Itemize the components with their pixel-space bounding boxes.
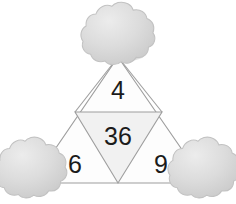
number-center: 36 [104,122,132,150]
puzzle-canvas: 4 36 6 9 [0,0,236,204]
puzzle-scene: 4 36 6 9 [0,0,236,204]
number-top: 4 [111,76,125,104]
tree-top [81,2,155,64]
tree-top-canopy [81,2,155,64]
number-bottom-left: 6 [68,150,82,178]
number-bottom-right: 9 [154,150,168,178]
